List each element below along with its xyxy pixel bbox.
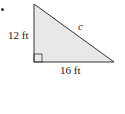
horizontal-leg-label: 16 ft: [60, 65, 80, 76]
vertical-leg-label: 12 ft: [8, 30, 28, 41]
hypotenuse-label: c: [78, 21, 83, 32]
right-triangle: [34, 4, 114, 62]
triangle-diagram: [0, 0, 125, 114]
